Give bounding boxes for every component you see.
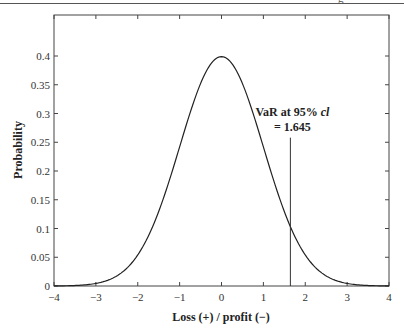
var-annotation-cl: cl (321, 105, 330, 119)
var-annotation-text: VaR at 95% (255, 105, 320, 119)
x-tick-label: −3 (90, 291, 102, 303)
x-tick-label: −2 (132, 291, 144, 303)
chart: g −4−3−2−101234 00.050.10.150.20.250.30.… (0, 0, 404, 328)
x-tick-label: 1 (261, 291, 267, 303)
y-tick-label: 0.35 (31, 79, 51, 91)
x-tick-label: 0 (219, 291, 225, 303)
x-tick-label: −4 (48, 291, 60, 303)
y-tick-label: 0.1 (36, 223, 50, 235)
y-tick-label: 0 (45, 280, 51, 292)
x-tick-label: 3 (344, 291, 350, 303)
y-tick-label: 0.25 (31, 136, 51, 148)
x-axis: −4−3−2−101234 (48, 15, 392, 303)
y-axis: 00.050.10.150.20.250.30.350.4 (31, 50, 389, 292)
plot-frame (54, 15, 389, 286)
x-tick-label: −1 (174, 291, 186, 303)
y-tick-label: 0.05 (31, 251, 51, 263)
y-tick-label: 0.2 (36, 165, 50, 177)
x-tick-label: 2 (303, 291, 309, 303)
var-annotation-line1: VaR at 95% cl (255, 105, 330, 119)
y-tick-label: 0.15 (31, 194, 51, 206)
header-partial-glyph: g (338, 0, 344, 4)
x-axis-title: Loss (+) / profit (−) (172, 310, 269, 324)
x-tick-label: 4 (386, 291, 392, 303)
y-axis-title: Probability (11, 121, 25, 179)
var-annotation-line2: = 1.645 (274, 120, 311, 134)
normal-density-curve (54, 57, 389, 286)
y-tick-label: 0.3 (36, 108, 50, 120)
y-tick-label: 0.4 (36, 50, 50, 62)
